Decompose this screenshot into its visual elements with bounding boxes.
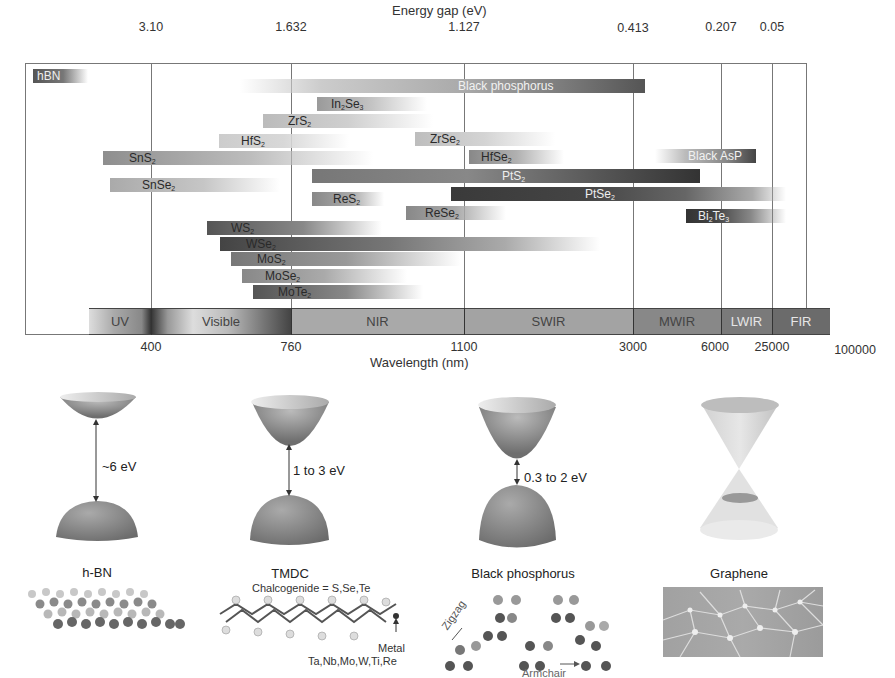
band-lwir: LWIR: [721, 308, 772, 335]
bar-hfs2: HfS2: [219, 134, 349, 148]
bottom-axis-title: Wavelength (nm): [370, 355, 469, 370]
bar-label: ReS2: [333, 192, 360, 210]
panel-title-tmdc: TMDC: [271, 566, 309, 581]
tmdc-lattice-icon: [220, 596, 399, 640]
bottom-tick: 1100: [451, 340, 478, 354]
bar-rese2: ReSe2: [406, 206, 506, 220]
graphene-dirac-cone-icon: [700, 397, 779, 540]
bar-pts2: PtS2: [312, 169, 700, 183]
bar-snse2: SnSe2: [110, 178, 280, 192]
bar-zrs2: ZrS2: [263, 114, 433, 128]
bar-mose2: MoSe2: [242, 269, 407, 283]
panel-title-graphene: Graphene: [710, 566, 768, 581]
bottom-tick: 3000: [619, 340, 647, 354]
top-tick: 3.10: [139, 20, 163, 34]
bar-in2se3: In2Se3: [317, 97, 427, 111]
bar-black-asp: Black AsP: [655, 149, 756, 163]
band-structures: [0, 380, 895, 570]
bottom-tick: 400: [141, 340, 162, 354]
bar-label: SnSe2: [142, 178, 175, 196]
top-tick: 0.05: [760, 20, 784, 34]
band-visible: Visible: [151, 308, 291, 335]
band-divider: [721, 308, 722, 335]
bar-bi2te3: Bi2Te3: [686, 209, 786, 223]
panel-title-bp: Black phosphorus: [471, 566, 574, 581]
bottom-tick: 6000: [701, 340, 729, 354]
band-uv: UV: [89, 308, 151, 335]
band-swir: SWIR: [464, 308, 633, 335]
bar-res2: ReS2: [312, 192, 384, 206]
band-divider: [291, 308, 292, 335]
band-divider: [151, 308, 152, 335]
bar-label: ReSe2: [425, 206, 459, 224]
bp-armchair-label: Armchair: [522, 667, 566, 678]
bar-ws2: WS2: [207, 221, 382, 235]
tmdc-metal-note: Metal: [378, 642, 405, 654]
graphene-lattice-icon: [663, 587, 823, 657]
top-tick: 0.207: [705, 20, 736, 34]
tmdc-chalcogenide-note: Chalcogenide = S,Se,Te: [252, 582, 370, 594]
bottom-tick: 760: [281, 340, 302, 354]
band-mwir: MWIR: [633, 308, 721, 335]
bar-mos2: MoS2: [231, 252, 461, 266]
bar-label: HfSe2: [481, 150, 512, 168]
bar-label: hBN: [37, 69, 60, 83]
bar-label: Black AsP: [688, 149, 742, 163]
band-divider: [772, 308, 773, 335]
bar-label: Black phosphorus: [458, 79, 553, 93]
bar-mote2: MoTe2: [253, 285, 423, 299]
bar-ptse2: PtSe2: [451, 187, 786, 201]
bar-hbn: hBN: [33, 69, 88, 83]
band-divider: [633, 308, 634, 335]
bp-lattice-icon: [445, 595, 611, 671]
bar-label: PtSe2: [585, 187, 615, 205]
gap-label-hbn: ~6 eV: [102, 459, 136, 474]
bar-sns2: SnS2: [103, 151, 373, 165]
gap-label-tmdc: 1 to 3 eV: [293, 463, 345, 478]
bar-label: HfS2: [241, 134, 265, 152]
bar-label: SnS2: [129, 151, 156, 169]
tmdc-metals-list: Ta,Nb,Mo,W,Ti,Re: [308, 655, 397, 667]
bar-wse2: WSe2: [220, 237, 600, 251]
bar-hfse2: HfSe2: [469, 150, 564, 164]
top-tick: 1.127: [448, 20, 479, 34]
top-axis-title: Energy gap (eV): [392, 3, 487, 18]
panel-title-hbn: h-BN: [82, 565, 112, 580]
band-fir: FIR: [772, 308, 830, 335]
top-tick: 0.413: [617, 21, 648, 35]
bar-label: ZrS2: [288, 114, 311, 132]
bar-label: MoS2: [257, 252, 286, 270]
top-tick: 1.632: [275, 20, 306, 34]
bar-label: In2Se3: [331, 97, 364, 115]
band-nir: NIR: [291, 308, 464, 335]
bar-label: ZrSe2: [430, 132, 460, 150]
hbn-lattice-icon: [28, 588, 185, 629]
bar-label: PtS2: [502, 169, 525, 187]
gridline: [151, 63, 152, 335]
gap-label-bp: 0.3 to 2 eV: [524, 470, 587, 485]
bottom-tick: 100000: [834, 343, 876, 357]
band-divider: [464, 308, 465, 335]
bar-black-phosphorus: Black phosphorus: [240, 79, 645, 93]
bar-label: MoTe2: [278, 285, 311, 303]
bar-label: Bi2Te3: [698, 209, 729, 227]
bottom-tick: 25000: [755, 340, 790, 354]
bar-zrse2: ZrSe2: [415, 132, 555, 146]
